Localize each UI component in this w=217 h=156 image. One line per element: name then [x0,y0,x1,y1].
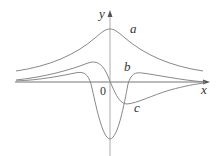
y-axis-arrow-icon [108,10,113,17]
y-axis-label: y [97,6,105,21]
curve-c-label: c [134,100,140,115]
curve-a-label: a [130,21,137,36]
x-axis [15,80,210,85]
origin-label: 0 [100,84,106,98]
curve-b-label: b [124,59,131,74]
function-graph: y x 0 a b c [0,0,217,156]
y-axis [108,10,113,156]
x-axis-label: x [200,82,207,97]
